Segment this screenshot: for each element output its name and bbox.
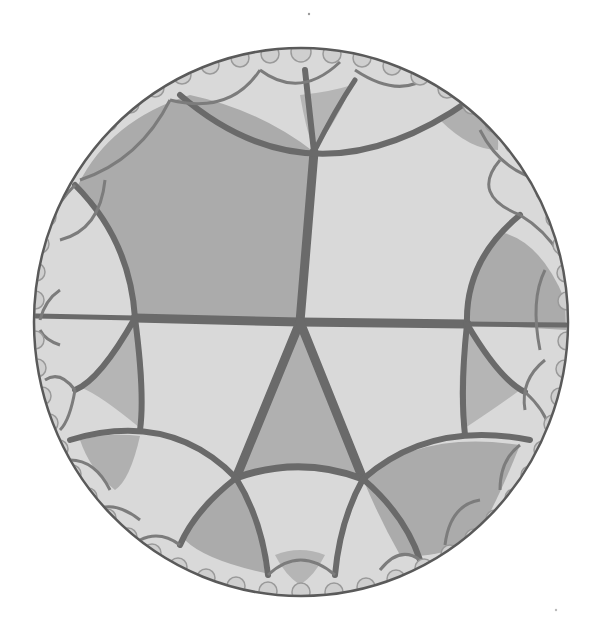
edge-right-to-rim [467, 324, 566, 325]
rim-tile [505, 489, 523, 507]
rim-tile [261, 45, 279, 63]
edge-center-horizontal-right [300, 322, 467, 324]
edge-left-to-rim [36, 316, 135, 318]
rim-tile [486, 510, 504, 528]
hyperbolic-tiling-figure [0, 0, 591, 617]
rim-tile [485, 114, 503, 132]
speck-mark [555, 609, 557, 611]
edge-center-horizontal-left [135, 318, 300, 322]
speck-mark [308, 13, 310, 15]
rim-tile [259, 582, 277, 600]
rim-tile [292, 583, 310, 601]
poincare-disk-svg [0, 0, 591, 617]
rim-tile [99, 113, 117, 131]
rim-tile [27, 263, 45, 281]
rim-tile [291, 42, 311, 62]
rim-tile [323, 45, 341, 63]
